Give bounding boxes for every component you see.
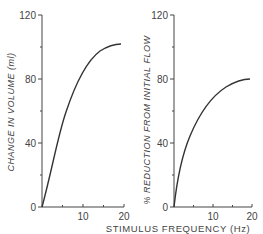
left-y-axis-label: CHANGE IN VOLUME (ml) [6,52,16,171]
left-ytick-0: 0 [30,202,36,213]
right-ytick-40: 40 [157,138,169,149]
right-ytick-0: 0 [162,202,168,213]
left-ytick-120: 120 [19,10,36,21]
left-curve [42,44,121,207]
left-xtick-20: 20 [118,211,130,222]
right-ytick-120: 120 [151,10,168,21]
right-curve [174,79,250,207]
left-y-ticks [38,15,42,207]
right-y-axis-label: % REDUCTION FROM INITIAL FLOW [142,35,152,205]
right-xtick-20: 20 [246,211,258,222]
x-axis-label: STIMULUS FREQUENCY (Hz) [106,223,251,234]
chart-canvas: 0 40 80 120 10 20 CHANGE IN VOLUME (ml) … [0,0,263,234]
right-ytick-80: 80 [157,74,169,85]
right-xtick-10: 10 [207,211,219,222]
left-ytick-40: 40 [25,138,37,149]
right-chart: 0 40 80 120 10 20 % REDUCTION FROM INITI… [142,10,258,222]
left-chart: 0 40 80 120 10 20 CHANGE IN VOLUME (ml) [6,10,130,222]
left-xtick-10: 10 [77,211,89,222]
right-y-ticks [170,15,174,207]
left-ytick-80: 80 [25,74,37,85]
